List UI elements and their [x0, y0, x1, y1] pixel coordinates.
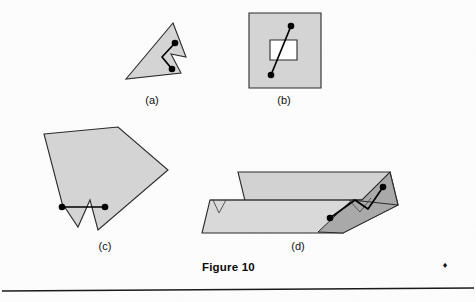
panel-a-label: (a)	[145, 94, 158, 106]
figure-caption: Figure 10	[202, 261, 255, 273]
figure-10-illustration: (a) (b) (c)	[0, 0, 476, 302]
figure-page: (a) (b) (c)	[0, 0, 476, 302]
panel-d-endpoint-dot	[327, 215, 334, 222]
panel-a-endpoint-dot	[172, 40, 179, 47]
panel-b-endpoint-dot	[268, 72, 275, 79]
panel-c-endpoint-dot	[102, 204, 109, 211]
panel-d-endpoint-dot	[380, 184, 387, 191]
panel-a-endpoint-dot	[169, 66, 176, 73]
panel-d-label: (d)	[291, 240, 304, 252]
panel-b-endpoint-dot	[288, 23, 295, 30]
panel-c-endpoint-dot	[59, 204, 66, 211]
panel-b-label: (b)	[277, 94, 290, 106]
corner-diamond-icon: ♦	[443, 260, 448, 270]
panel-c-label: (c)	[99, 240, 112, 252]
